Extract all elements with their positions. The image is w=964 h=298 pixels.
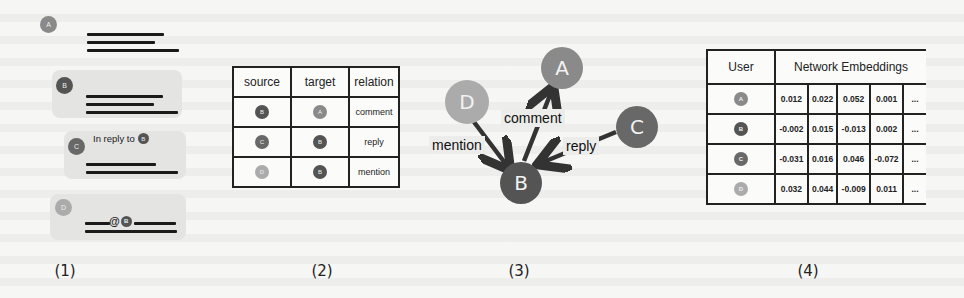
embedding-value: -0.013	[837, 114, 870, 144]
avatar-user-d: D	[55, 199, 72, 216]
table-row: C B reply	[233, 127, 399, 157]
text-line	[87, 49, 179, 52]
caption-panel-1: (1)	[45, 262, 85, 280]
user-cell: A	[707, 84, 775, 114]
text-line	[86, 95, 163, 98]
user-avatar-b: B	[313, 135, 327, 149]
edge-label-comment: comment	[501, 109, 565, 127]
avatar-user-c: C	[68, 138, 85, 155]
text-line	[87, 33, 164, 36]
ellipsis-cell: ...	[903, 84, 926, 114]
header-relation: relation	[349, 67, 399, 97]
embedding-value: 0.002	[870, 114, 903, 144]
embedding-value: 0.015	[808, 114, 837, 144]
source-cell: B	[233, 97, 291, 127]
panel-graph: A D C B comment mention reply	[420, 20, 680, 260]
embedding-value: -0.031	[775, 144, 808, 174]
embedding-value: 0.001	[870, 84, 903, 114]
caption-panel-4: (4)	[788, 262, 828, 280]
table-row: D 0.032 0.044 -0.009 0.011 ...	[707, 174, 926, 204]
edge-label-mention: mention	[429, 136, 485, 154]
embedding-value: 0.012	[775, 84, 808, 114]
at-symbol: @	[109, 215, 120, 227]
relation-table: source target relation B A comment C B r…	[232, 66, 400, 188]
embeddings-table: User Network Embeddings A 0.012 0.022 0.…	[706, 49, 926, 205]
embedding-value: 0.022	[808, 84, 837, 114]
user-cell: D	[707, 174, 775, 204]
user-avatar-b: B	[313, 165, 327, 179]
graph-node-a: A	[541, 47, 583, 89]
embedding-value: 0.046	[837, 144, 870, 174]
user-avatar-a: A	[313, 105, 327, 119]
table-header-row: source target relation	[233, 67, 399, 97]
embedding-value: -0.009	[837, 174, 870, 204]
text-line	[85, 230, 177, 233]
ellipsis-cell: ...	[903, 114, 926, 144]
mention-tag: @ B	[109, 215, 132, 227]
header-target: target	[291, 67, 349, 97]
table-row: C -0.031 0.016 0.046 -0.072 ...	[707, 144, 926, 174]
reply-target-avatar: B	[138, 133, 149, 144]
user-avatar-a: A	[734, 92, 748, 106]
caption-panel-3: (3)	[499, 262, 539, 280]
graph-node-d: D	[445, 80, 489, 124]
relation-cell: comment	[349, 97, 399, 127]
ellipsis-cell: ...	[903, 174, 926, 204]
user-avatar-d: D	[255, 165, 269, 179]
user-avatar-c: C	[734, 152, 748, 166]
table-header-row: User Network Embeddings	[707, 50, 926, 84]
source-cell: D	[233, 157, 291, 187]
table-row: B A comment	[233, 97, 399, 127]
embedding-value: -0.072	[870, 144, 903, 174]
text-line	[85, 222, 110, 225]
relation-cell: mention	[349, 157, 399, 187]
ellipsis-cell: ...	[903, 144, 926, 174]
reply-prefix: In reply to	[93, 133, 135, 144]
text-line	[86, 103, 154, 106]
embedding-value: 0.052	[837, 84, 870, 114]
user-avatar-b: B	[255, 105, 269, 119]
reply-indicator: In reply to B	[93, 133, 149, 144]
caption-panel-2: (2)	[302, 262, 342, 280]
text-line	[134, 222, 176, 225]
text-line	[86, 111, 178, 114]
embedding-value: 0.044	[808, 174, 837, 204]
text-line	[86, 163, 156, 166]
target-cell: A	[291, 97, 349, 127]
table-row: D B mention	[233, 157, 399, 187]
header-network-embeddings: Network Embeddings	[775, 50, 926, 84]
user-avatar-c: C	[255, 135, 269, 149]
user-cell: C	[707, 144, 775, 174]
mention-target-avatar: B	[121, 216, 132, 227]
source-cell: C	[233, 127, 291, 157]
target-cell: B	[291, 127, 349, 157]
embedding-value: 0.016	[808, 144, 837, 174]
user-avatar-b: B	[734, 122, 748, 136]
embedding-value: 0.032	[775, 174, 808, 204]
user-avatar-d: D	[734, 182, 748, 196]
embedding-value: 0.011	[870, 174, 903, 204]
panel-chat-thread: A B C In reply to B D @ B (1)	[0, 0, 210, 298]
relation-cell: reply	[349, 127, 399, 157]
text-line	[87, 41, 155, 44]
graph-node-b: B	[500, 162, 542, 204]
avatar-user-a: A	[40, 16, 57, 33]
user-cell: B	[707, 114, 775, 144]
header-user: User	[707, 50, 775, 84]
target-cell: B	[291, 157, 349, 187]
table-row: B -0.002 0.015 -0.013 0.002 ...	[707, 114, 926, 144]
header-source: source	[233, 67, 291, 97]
avatar-user-b: B	[56, 77, 73, 94]
text-line	[86, 171, 178, 174]
graph-node-c: C	[616, 106, 658, 148]
embedding-value: -0.002	[775, 114, 808, 144]
table-row: A 0.012 0.022 0.052 0.001 ...	[707, 84, 926, 114]
edge-label-reply: reply	[563, 137, 599, 155]
